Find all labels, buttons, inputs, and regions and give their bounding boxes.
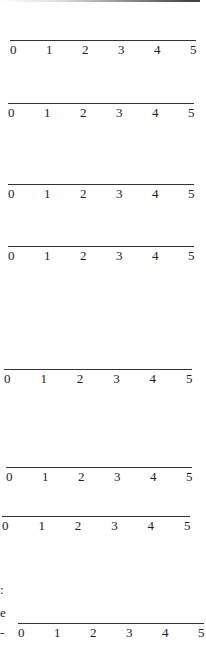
text-fragment-e: e xyxy=(0,606,6,620)
tick-label: 0 xyxy=(8,187,15,201)
tick-label: 0 xyxy=(10,43,17,57)
tick-label: 4 xyxy=(150,470,157,484)
number-line: 012345 xyxy=(6,467,192,489)
tick-label: 5 xyxy=(186,372,193,386)
tick-label: 1 xyxy=(40,372,47,386)
tick-label: 2 xyxy=(82,43,89,57)
tick-label: 1 xyxy=(44,106,51,120)
tick-label: 0 xyxy=(18,626,25,640)
tick-label: 3 xyxy=(116,187,123,201)
tick-label: 4 xyxy=(150,372,157,386)
tick-label: 3 xyxy=(126,626,133,640)
tick-label: 5 xyxy=(190,43,197,57)
number-line-axis xyxy=(8,246,194,247)
tick-label: 2 xyxy=(77,372,84,386)
number-line: 012345 xyxy=(8,246,194,268)
text-fragment-colon: : xyxy=(0,583,4,597)
tick-label: 1 xyxy=(44,249,51,263)
number-line-axis xyxy=(8,103,194,104)
number-line-axis xyxy=(2,516,190,517)
number-line: 012345 xyxy=(2,516,190,538)
tick-label: 4 xyxy=(152,249,159,263)
tick-label: 1 xyxy=(46,43,53,57)
tick-label: 5 xyxy=(188,106,195,120)
tick-label: 3 xyxy=(116,249,123,263)
tick-label: 5 xyxy=(184,519,191,533)
tick-label: 2 xyxy=(80,187,87,201)
tick-label: 0 xyxy=(4,372,11,386)
tick-label: 0 xyxy=(2,519,9,533)
tick-label: 5 xyxy=(198,626,205,640)
tick-label: 3 xyxy=(114,470,121,484)
tick-label: 1 xyxy=(44,187,51,201)
tick-label: 4 xyxy=(152,106,159,120)
tick-label: 3 xyxy=(113,372,120,386)
tick-label: 3 xyxy=(111,519,118,533)
tick-label: 1 xyxy=(42,470,49,484)
number-line: 012345 xyxy=(8,103,194,125)
tick-label: 2 xyxy=(80,249,87,263)
tick-label: 0 xyxy=(8,249,15,263)
tick-label: 4 xyxy=(148,519,155,533)
tick-label: 5 xyxy=(188,249,195,263)
tick-label: 5 xyxy=(188,187,195,201)
number-line: 012345 xyxy=(8,184,194,206)
number-line-axis xyxy=(6,467,192,468)
tick-label: 4 xyxy=(162,626,169,640)
tick-label: 3 xyxy=(118,43,125,57)
tick-label: 3 xyxy=(116,106,123,120)
tick-label: 0 xyxy=(8,106,15,120)
text-fragment-dash: - xyxy=(0,626,4,640)
tick-label: 2 xyxy=(75,519,82,533)
top-border-line xyxy=(0,0,200,2)
tick-label: 2 xyxy=(80,106,87,120)
tick-label: 1 xyxy=(38,519,45,533)
tick-label: 0 xyxy=(6,470,13,484)
tick-label: 5 xyxy=(186,470,193,484)
tick-label: 4 xyxy=(152,187,159,201)
tick-label: 4 xyxy=(154,43,161,57)
number-line: 012345 xyxy=(10,40,196,62)
number-line-axis xyxy=(4,369,192,370)
number-line: 012345 xyxy=(18,623,204,645)
number-line-axis xyxy=(10,40,196,41)
number-line-axis xyxy=(8,184,194,185)
number-line-axis xyxy=(18,623,204,624)
tick-label: 2 xyxy=(78,470,85,484)
tick-label: 2 xyxy=(90,626,97,640)
number-line: 012345 xyxy=(4,369,192,391)
tick-label: 1 xyxy=(54,626,61,640)
